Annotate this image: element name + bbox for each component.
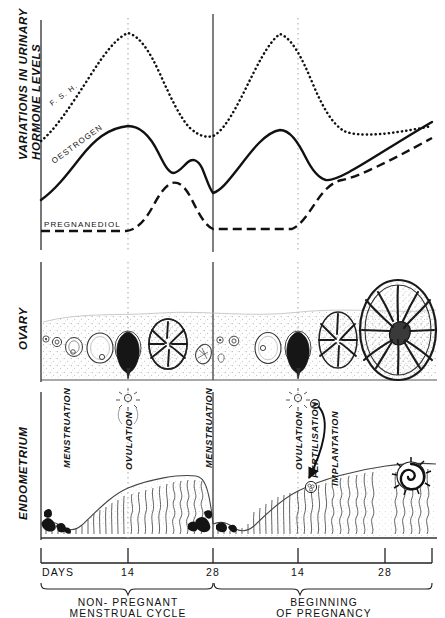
oocyte-nucleus <box>45 338 47 340</box>
phase-1-line1: NON- PREGNANT <box>78 597 179 608</box>
phase-brace-2 <box>214 583 432 595</box>
implantation-label: IMPLANTATION <box>330 411 340 486</box>
figure-canvas: F. S. H. OESTROGEN PREGNANEDIOL VARIATIO… <box>0 0 445 618</box>
days-tick-label-14b: 14 <box>291 566 305 578</box>
endometrium-axis-label: ENDOMETRIUM <box>17 427 29 521</box>
hormone-axis-title-line1: VARIATIONS IN URINARY <box>17 7 29 160</box>
days-tick-label-28b: 28 <box>378 566 392 578</box>
ovary-panel: OVARY <box>17 262 437 382</box>
fsh-label: F. S. H. <box>48 81 79 107</box>
oestrogen-curve <box>41 122 432 200</box>
follicle-antrum <box>258 336 277 360</box>
ovulation-label-1: OVULATION <box>124 411 134 470</box>
burst-rays <box>286 388 310 411</box>
pregnanediol-curve <box>41 138 432 231</box>
ovulation-label-2: OVULATION <box>294 411 304 470</box>
phase-2-line2: OF PREGNANCY <box>276 608 372 618</box>
phase-brace-1 <box>41 583 213 595</box>
days-tick-label-14a: 14 <box>121 566 135 578</box>
days-axis: DAYS 14 28 14 28 NON- PREGNANT MENSTRUAL… <box>41 548 432 618</box>
early-embryo <box>305 481 316 492</box>
hormone-axis-title-line2: HORMONE LEVELS <box>30 44 42 160</box>
ovum-path <box>118 408 122 424</box>
ovulation-burst-2 <box>286 388 310 411</box>
menstruation-label-1: MENSTRUATION <box>62 387 72 468</box>
hormone-panel: F. S. H. OESTROGEN PREGNANEDIOL VARIATIO… <box>17 7 432 252</box>
days-label: DAYS <box>42 566 74 578</box>
pregnanediol-label: PREGNANEDIOL <box>44 220 121 229</box>
phase-2-line1: BEGINNING <box>290 597 358 608</box>
phase-1-line2: MENSTRUAL CYCLE <box>70 608 187 618</box>
days-tick-label-28a: 28 <box>206 566 220 578</box>
endometrium-panel: ENDOMETRIUM <box>17 387 437 540</box>
menstrual-shedding-1 <box>42 509 71 534</box>
oocyte-nucleus <box>219 339 221 341</box>
menstruation-label-2: MENSTRUATION <box>204 387 214 468</box>
burst-rays <box>116 388 140 411</box>
cycle-diagram: F. S. H. OESTROGEN PREGNANEDIOL VARIATIO… <box>0 0 445 618</box>
oestrogen-label: OESTROGEN <box>50 122 105 165</box>
ovum-path <box>134 408 138 424</box>
ovary-axis-label: OVARY <box>17 306 29 350</box>
zygote-nucleus <box>314 403 317 406</box>
